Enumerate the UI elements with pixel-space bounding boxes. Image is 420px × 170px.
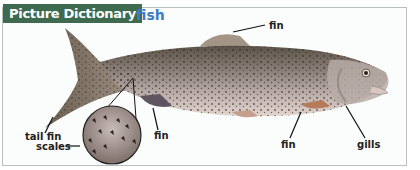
- label-top-fin: fin: [269, 20, 284, 32]
- label-pelvic-fin: fin: [281, 139, 296, 151]
- label-scales: scales: [36, 141, 71, 153]
- label-belly-fin: fin: [154, 130, 169, 142]
- dorsal-fin: [200, 34, 250, 46]
- scales-zoom-circle: [83, 106, 141, 164]
- label-gills: gills: [357, 139, 380, 151]
